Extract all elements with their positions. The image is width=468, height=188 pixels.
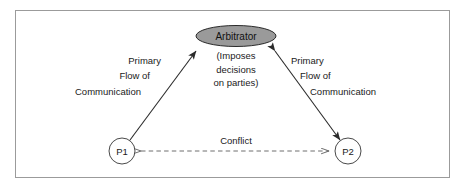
node-party1[interactable]: P1 [109,138,135,164]
arbitrator-sub-line-2: decisions [216,64,256,75]
conflict-label: Conflict [220,135,252,146]
node-arbitrator[interactable]: Arbitrator [196,26,276,47]
left-flow-line-1: Primary [128,55,161,66]
arbitrator-sublabel: (Imposes decisions on parties) [214,50,259,88]
party2-label: P2 [342,146,354,157]
left-flow-line-2: Flow of [119,70,150,81]
left-flow-line-3: Communication [75,86,141,97]
node-party2[interactable]: P2 [335,138,361,164]
right-flow-line-2: Flow of [300,70,331,81]
right-flow-line-3: Communication [310,86,376,97]
diagram-graphic: Arbitrator (Imposes decisions on parties… [0,0,468,188]
right-flow-line-1: Primary [291,55,324,66]
arbitrator-sub-line-1: (Imposes [216,50,255,61]
party1-label: P1 [116,146,128,157]
diagram-canvas: Arbitrator (Imposes decisions on parties… [0,0,468,188]
label-left-primary-flow: Primary Flow of Communication [75,55,161,97]
arbitrator-label: Arbitrator [215,31,257,42]
arbitrator-sub-line-3: on parties) [214,77,259,88]
